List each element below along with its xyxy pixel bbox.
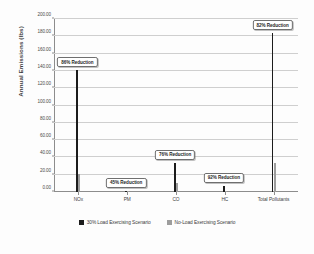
- y-tick-label: 140.00: [38, 63, 51, 68]
- x-tick-mark: [176, 192, 177, 195]
- bar-secondary: [274, 163, 276, 192]
- bar-group: [249, 19, 298, 192]
- x-tick-mark: [225, 192, 226, 195]
- y-tick-label: 100.00: [38, 98, 51, 103]
- y-tick-label: 160.00: [38, 46, 51, 51]
- chart-legend: 30% Load Exercising ScenarioNo-Load Exer…: [0, 220, 314, 225]
- y-tick-label: 60.00: [40, 133, 51, 138]
- legend-label: No-Load Exercising Scenario: [175, 220, 236, 225]
- y-tick-label: 80.00: [40, 115, 51, 120]
- x-tick-mark: [78, 192, 79, 195]
- y-tick-label: 200.00: [38, 12, 51, 17]
- plot-area: 0.0020.0040.0060.0080.00100.00120.00140.…: [54, 19, 298, 192]
- reduction-callout: 76% Reduction: [155, 150, 195, 160]
- bars-layer: [54, 19, 298, 192]
- x-tick-label: Total Pollutants: [258, 197, 290, 202]
- bar-secondary: [78, 174, 80, 192]
- bar-group: [54, 19, 103, 192]
- bar-group: [152, 19, 201, 192]
- reduction-callout: 82% Reduction: [252, 20, 292, 30]
- reduction-callout: 92% Reduction: [204, 173, 244, 183]
- bar-group: [200, 19, 249, 192]
- y-tick-label: 120.00: [38, 81, 51, 86]
- legend-entry: 30% Load Exercising Scenario: [79, 220, 151, 225]
- legend-label: 30% Load Exercising Scenario: [87, 220, 151, 225]
- x-tick-mark: [127, 192, 128, 195]
- legend-swatch: [79, 220, 84, 225]
- reduction-callout: 45% Reduction: [106, 178, 146, 188]
- y-tick-label: 40.00: [40, 150, 51, 155]
- emissions-bar-chart: Annual Emissions (lbs) 0.0020.0040.0060.…: [0, 0, 314, 254]
- x-tick-label: HC: [221, 197, 228, 202]
- y-tick-label: 180.00: [38, 29, 51, 34]
- x-tick-label: NOx: [74, 197, 83, 202]
- reduction-callout: 86% Reduction: [57, 57, 97, 67]
- legend-swatch: [167, 220, 172, 225]
- bar-secondary: [176, 183, 178, 193]
- y-axis-title: Annual Emissions (lbs): [17, 2, 24, 122]
- y-tick-label: 0.00: [42, 185, 51, 190]
- x-tick-mark: [274, 192, 275, 195]
- y-tick-label: 20.00: [40, 167, 51, 172]
- x-tick-label: CO: [172, 197, 179, 202]
- legend-entry: No-Load Exercising Scenario: [167, 220, 236, 225]
- bar-group: [103, 19, 152, 192]
- x-tick-label: PM: [124, 197, 131, 202]
